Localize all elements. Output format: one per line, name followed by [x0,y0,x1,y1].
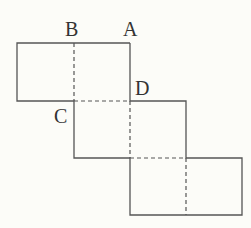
label-b: B [65,19,78,39]
label-d: D [135,78,149,98]
label-a: A [123,19,137,39]
label-c: C [54,106,67,126]
